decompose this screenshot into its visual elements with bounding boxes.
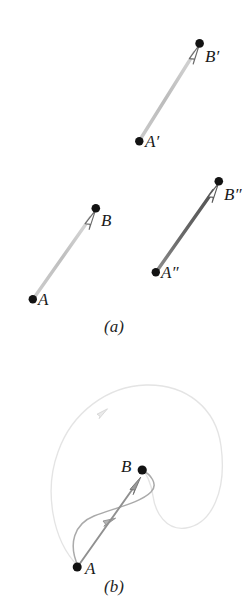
figure-root: B′ A′ B A B″ A″ B A (a) (b) (0, 0, 252, 609)
caption-panel-a: (a) (104, 318, 124, 335)
panel-b-group (51, 385, 222, 572)
arrow-shaft (140, 53, 195, 141)
loop-arrowhead (97, 409, 108, 419)
arrowhead-open-triangle (85, 210, 95, 229)
endpoint-dot-A-double-prime (152, 268, 160, 276)
label-b-panel-b: B (121, 458, 131, 475)
endpoint-dot-B-prime (195, 39, 204, 48)
label-b-double-prime: B″ (224, 186, 241, 203)
arrow-A-prime-B-prime (135, 39, 204, 145)
endpoint-dot-A (29, 295, 37, 303)
endpoint-dot-B-double-prime (215, 177, 224, 186)
large-loop-path (51, 385, 222, 566)
arrow-shaft (34, 218, 91, 299)
arrow-A-B (29, 204, 101, 304)
caption-panel-b: (b) (104, 578, 124, 595)
straight-shaft (79, 484, 137, 566)
endpoint-dot-B (92, 204, 101, 213)
curve-stroke (73, 470, 154, 566)
point-B-dot (138, 465, 147, 474)
arrow-shaft (157, 191, 214, 272)
point-A-dot (73, 563, 82, 572)
arrowhead-open-triangle (208, 183, 218, 202)
label-a: A (38, 291, 48, 308)
label-a-panel-b: A (85, 560, 95, 577)
label-a-prime: A′ (145, 133, 159, 150)
straight-arrow-A-to-B (79, 477, 141, 566)
panel-a-group (29, 39, 224, 303)
label-a-double-prime: A″ (161, 264, 178, 281)
loop-curve (51, 385, 222, 566)
arrow-A-double-prime-B-double-prime (152, 177, 224, 277)
curved-transport-path (73, 470, 154, 566)
endpoint-dot-A-prime (135, 137, 143, 145)
label-b-prime: B′ (205, 48, 219, 65)
label-b: B (101, 212, 111, 229)
